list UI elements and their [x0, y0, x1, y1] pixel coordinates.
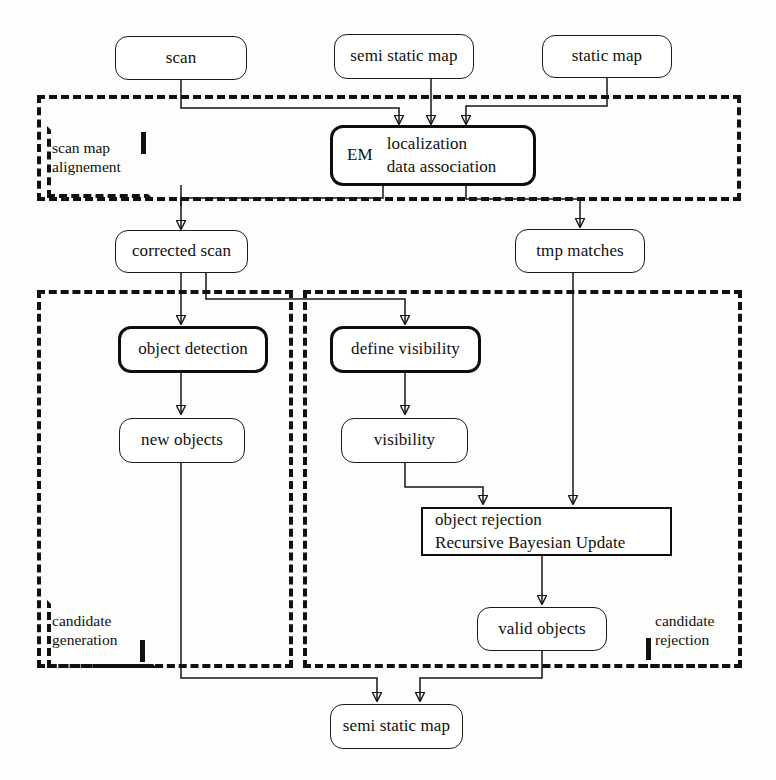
node-scan-label: scan	[160, 48, 203, 68]
node-define-visibility-label: define visibility	[345, 339, 466, 359]
group-label-candidate-generation: candidate generation	[52, 612, 117, 650]
group-label-line-1: candidate	[655, 612, 714, 631]
node-corrected-scan[interactable]: corrected scan	[115, 230, 248, 273]
node-object-rejection[interactable]: object rejection Recursive Bayesian Upda…	[421, 507, 672, 556]
node-em-line-1: localization	[387, 133, 497, 155]
group-label-line-2: generation	[52, 631, 117, 650]
node-em[interactable]: EM localization data association	[330, 125, 536, 186]
diagram-canvas: scan map alignement candidate generation…	[0, 0, 776, 780]
group-label-tick-scan-map	[141, 132, 146, 154]
node-tmp-matches-label: tmp matches	[530, 241, 630, 261]
node-semi-static-map-bottom[interactable]: semi static map	[330, 704, 463, 749]
node-object-detection-label: object detection	[132, 339, 254, 359]
node-em-line-2: data association	[387, 156, 497, 178]
node-visibility-label: visibility	[368, 430, 441, 450]
node-object-rejection-line-2: Recursive Bayesian Update	[435, 532, 625, 554]
node-define-visibility[interactable]: define visibility	[330, 326, 481, 373]
group-label-line-1: scan map	[52, 139, 121, 158]
node-valid-objects[interactable]: valid objects	[477, 607, 607, 651]
node-semi-static-map-bottom-label: semi static map	[337, 716, 456, 736]
group-label-scan-map-alignement: scan map alignement	[52, 139, 121, 177]
node-object-rejection-text: object rejection Recursive Bayesian Upda…	[423, 509, 625, 553]
node-semi-static-map-top-label: semi static map	[344, 46, 463, 66]
node-static-map[interactable]: static map	[542, 35, 672, 78]
group-label-tick-candidate-rejection	[646, 638, 651, 660]
node-semi-static-map-top[interactable]: semi static map	[334, 34, 474, 79]
node-em-tag: EM	[347, 145, 373, 165]
node-object-rejection-line-1: object rejection	[435, 509, 625, 531]
node-valid-objects-label: valid objects	[492, 619, 592, 639]
group-label-line-2: alignement	[52, 158, 121, 177]
node-corrected-scan-label: corrected scan	[126, 241, 237, 261]
group-label-line-1: candidate	[52, 612, 117, 631]
node-tmp-matches[interactable]: tmp matches	[515, 229, 645, 273]
node-visibility[interactable]: visibility	[341, 418, 468, 463]
group-label-tick-candidate-generation	[140, 640, 145, 662]
node-new-objects[interactable]: new objects	[119, 418, 245, 463]
group-label-line-2: rejection	[655, 631, 714, 650]
node-object-detection[interactable]: object detection	[118, 326, 268, 373]
node-static-map-label: static map	[566, 46, 648, 66]
node-new-objects-label: new objects	[135, 430, 229, 450]
node-scan[interactable]: scan	[115, 36, 247, 80]
group-label-candidate-rejection: candidate rejection	[655, 612, 714, 650]
node-em-text: localization data association	[387, 133, 497, 178]
